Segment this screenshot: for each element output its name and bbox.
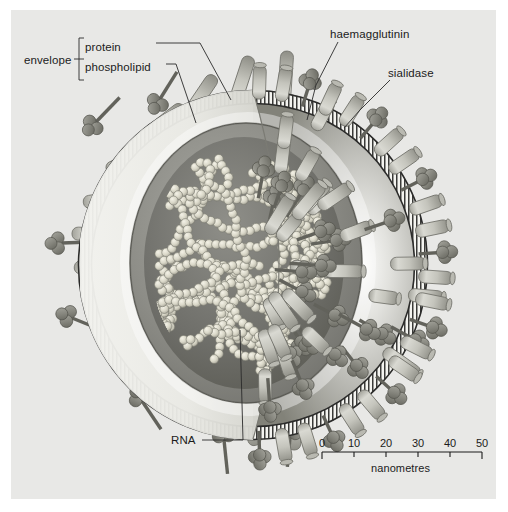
scale-tick-50: 50	[476, 437, 488, 449]
label-envelope: envelope	[24, 54, 71, 66]
scale-tick-30: 30	[412, 437, 424, 449]
haemagglutinin-spike	[252, 62, 266, 99]
haemagglutinin-spike	[390, 257, 428, 271]
scale-tick-10: 10	[348, 437, 360, 449]
scale-tick-0: 0	[319, 437, 325, 449]
scale-bar	[322, 452, 482, 459]
leader-protein	[156, 43, 231, 100]
label-haemagglutinin: haemagglutinin	[330, 28, 409, 40]
figure-root: envelope protein phospholipid haemagglut…	[0, 0, 508, 512]
rna-bead	[204, 326, 213, 335]
label-rna: RNA	[171, 434, 196, 446]
rna-bead	[186, 335, 195, 344]
scale-tick-20: 20	[380, 437, 392, 449]
label-protein: protein	[85, 41, 121, 53]
rna-bead	[197, 190, 206, 199]
haemagglutinin-spike	[418, 270, 455, 285]
scale-tick-40: 40	[444, 437, 456, 449]
scale-unit-label: nanometres	[371, 462, 430, 474]
label-sialidase: sialidase	[388, 67, 434, 79]
rna-bead	[169, 196, 178, 205]
rna-bead	[269, 237, 278, 246]
label-phospholipid: phospholipid	[85, 61, 151, 73]
rna-bead	[210, 355, 219, 364]
